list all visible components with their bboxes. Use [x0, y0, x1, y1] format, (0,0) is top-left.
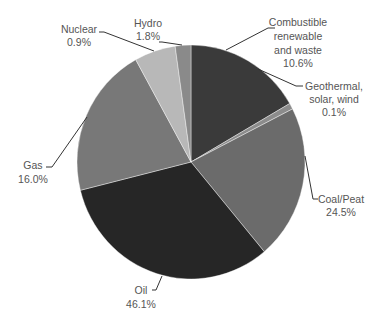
svg-text:0.1%: 0.1%: [322, 106, 346, 118]
svg-text:46.1%: 46.1%: [126, 298, 156, 310]
label-hydro: Hydro 1.8%: [134, 17, 162, 42]
svg-text:24.5%: 24.5%: [326, 206, 356, 218]
pie-slices: [77, 45, 305, 279]
leader-line-combustible: [226, 28, 275, 50]
label-geothermal: Geothermal, solar, wind 0.1%: [305, 80, 363, 118]
svg-text:Geothermal,: Geothermal,: [305, 80, 363, 92]
svg-text:renewable: renewable: [274, 30, 323, 42]
svg-text:16.0%: 16.0%: [18, 173, 48, 185]
pie-chart: Combustible renewable and waste 10.6% Ge…: [0, 0, 377, 319]
svg-text:Gas: Gas: [23, 159, 42, 171]
svg-text:Oil: Oil: [135, 284, 148, 296]
label-oil: Oil 46.1%: [126, 284, 156, 310]
label-gas: Gas 16.0%: [18, 159, 48, 185]
svg-text:solar, wind: solar, wind: [309, 93, 359, 105]
svg-text:Coal/Peat: Coal/Peat: [318, 193, 364, 205]
svg-text:and waste: and waste: [274, 44, 322, 56]
svg-text:10.6%: 10.6%: [283, 57, 313, 69]
label-combustible: Combustible renewable and waste 10.6%: [269, 16, 328, 69]
svg-text:Nuclear: Nuclear: [61, 23, 98, 35]
svg-text:Combustible: Combustible: [269, 16, 328, 28]
svg-text:0.9%: 0.9%: [67, 36, 91, 48]
label-coal-peat: Coal/Peat 24.5%: [318, 193, 364, 218]
leader-line-coal: [305, 156, 318, 199]
svg-text:1.8%: 1.8%: [136, 30, 160, 42]
leader-line-hydro: [159, 42, 182, 45]
leader-line-oil: [152, 276, 162, 290]
svg-text:Hydro: Hydro: [134, 17, 162, 29]
label-nuclear: Nuclear 0.9%: [61, 23, 98, 48]
